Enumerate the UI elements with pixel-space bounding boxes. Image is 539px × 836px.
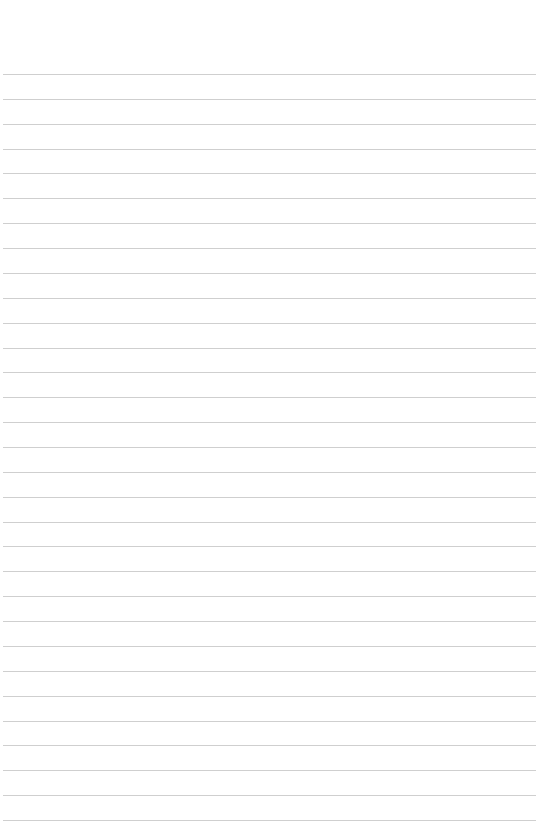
- ruled-line: [3, 596, 536, 597]
- ruled-line: [3, 795, 536, 796]
- ruled-line: [3, 820, 536, 821]
- ruled-line: [3, 149, 536, 150]
- ruled-line: [3, 99, 536, 100]
- ruled-line: [3, 696, 536, 697]
- ruled-line: [3, 397, 536, 398]
- ruled-line: [3, 223, 536, 224]
- ruled-line: [3, 745, 536, 746]
- ruled-line: [3, 323, 536, 324]
- ruled-line: [3, 646, 536, 647]
- ruled-line: [3, 248, 536, 249]
- ruled-line: [3, 621, 536, 622]
- ruled-line: [3, 472, 536, 473]
- ruled-line: [3, 770, 536, 771]
- lined-paper-page: [0, 0, 539, 836]
- ruled-line: [3, 497, 536, 498]
- ruled-line: [3, 198, 536, 199]
- ruled-line: [3, 273, 536, 274]
- ruled-line: [3, 74, 536, 75]
- ruled-line: [3, 546, 536, 547]
- ruled-line: [3, 522, 536, 523]
- ruled-line: [3, 298, 536, 299]
- ruled-line: [3, 447, 536, 448]
- ruled-line: [3, 721, 536, 722]
- ruled-line: [3, 422, 536, 423]
- ruled-line: [3, 124, 536, 125]
- ruled-line: [3, 173, 536, 174]
- ruled-line: [3, 372, 536, 373]
- ruled-line: [3, 671, 536, 672]
- ruled-line: [3, 571, 536, 572]
- ruled-line: [3, 348, 536, 349]
